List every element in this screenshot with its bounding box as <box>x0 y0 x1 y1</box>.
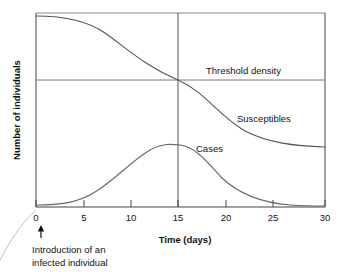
chart-figure: 0 5 10 15 20 25 30 Time (days) Number of… <box>0 0 342 272</box>
x-axis-title: Time (days) <box>159 234 212 245</box>
cases-label: Cases <box>196 143 223 154</box>
x-tick-label-0: 0 <box>33 212 38 223</box>
epidemic-curve-chart: 0 5 10 15 20 25 30 Time (days) Number of… <box>0 0 342 272</box>
x-tick-label-10: 10 <box>126 212 137 223</box>
x-tick-label-5: 5 <box>81 212 86 223</box>
x-axis-ticks <box>36 200 325 207</box>
introduction-annotation-line2: infected individual <box>32 257 108 268</box>
susceptibles-curve <box>36 16 325 147</box>
x-tick-label-30: 30 <box>320 212 331 223</box>
introduction-annotation-line1: Introduction of an <box>32 244 105 255</box>
y-axis-title: Number of individuals <box>11 60 22 160</box>
cases-curve <box>36 144 325 206</box>
decorative-swoosh <box>0 210 36 272</box>
introduction-arrow-icon <box>38 225 44 238</box>
x-tick-label-20: 20 <box>221 212 232 223</box>
susceptibles-label: Susceptibles <box>237 113 291 124</box>
x-tick-label-25: 25 <box>268 212 279 223</box>
threshold-density-label: Threshold density <box>206 65 281 76</box>
x-tick-label-15: 15 <box>173 212 184 223</box>
